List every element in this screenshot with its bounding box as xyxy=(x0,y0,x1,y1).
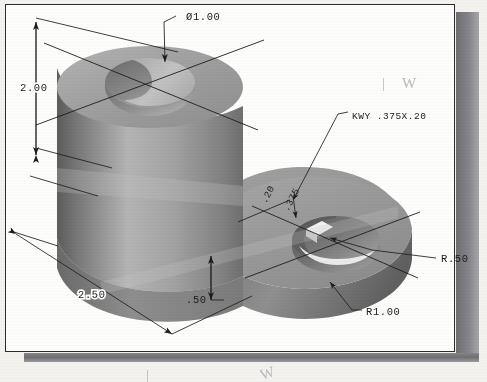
dim-overall-height-label: 2.00 xyxy=(20,82,48,94)
dim-length-ext-a xyxy=(14,232,58,246)
scanned-page-background: Ø1.00 2.00 2.50 .50 KWY .375X.20 .20 .37… xyxy=(0,0,487,382)
pencil-bar-mark-bottom: | xyxy=(146,367,149,382)
ext-line-top xyxy=(36,18,178,52)
dim-keyway-leader xyxy=(338,112,348,114)
pencil-w-mark-bottom: W xyxy=(258,363,277,382)
dim-plate-thickness-label: .50 xyxy=(186,294,207,306)
isometric-solid-model xyxy=(57,46,412,322)
drawing-canvas: Ø1.00 2.00 2.50 .50 KWY .375X.20 .20 .37… xyxy=(0,0,487,382)
dim-bore-leader xyxy=(164,16,176,22)
pencil-bar-mark: | xyxy=(382,75,385,91)
dim-plate-length-label: 2.50 xyxy=(78,289,106,301)
dim-hole-radius-label: R.50 xyxy=(441,253,469,265)
pencil-w-mark: W xyxy=(402,75,417,91)
dim-boss-radius-label: R1.00 xyxy=(366,306,401,318)
dim-bore-diameter-label: Ø1.00 xyxy=(186,11,221,23)
dim-keyway-note-label: KWY .375X.20 xyxy=(352,111,426,122)
